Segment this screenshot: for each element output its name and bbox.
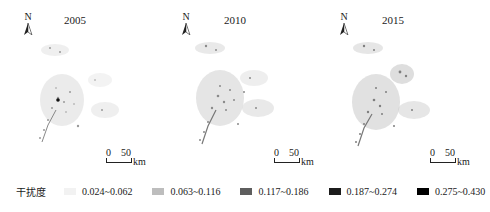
scale-fifty: 50 [289,148,299,158]
legend-item: 0.275~0.430 [417,186,485,197]
scale-zero: 0 [106,148,111,158]
map-panel-2010: N 2010 050 km [158,0,316,175]
legend-swatch [152,188,164,195]
legend: 干扰度 0.024~0.062 0.063~0.116 0.117~0.186 … [16,184,490,199]
scale-unit: km [457,156,470,167]
north-label: N [338,12,350,22]
scale-bar: 050 km [106,148,132,163]
scale-bar-line [106,158,132,163]
scale-bar-line [274,158,300,163]
legend-label: 0.187~0.274 [347,186,397,197]
scale-bar: 050 km [430,148,456,163]
legend-item: 0.063~0.116 [152,186,220,197]
scale-bar-line [430,158,456,163]
legend-swatch [417,188,429,195]
legend-label: 0.117~0.186 [258,186,308,197]
north-label: N [22,12,34,22]
year-label: 2010 [224,14,246,26]
scale-unit: km [301,156,314,167]
legend-label: 0.063~0.116 [170,186,220,197]
year-label: 2015 [382,14,404,26]
north-label: N [180,12,192,22]
year-label: 2005 [64,14,86,26]
scale-fifty: 50 [445,148,455,158]
scale-zero: 0 [274,148,279,158]
legend-title: 干扰度 [16,184,46,199]
scale-bar: 050 km [274,148,300,163]
legend-swatch [240,188,252,195]
legend-item: 0.117~0.186 [240,186,308,197]
scale-fifty: 50 [121,148,131,158]
legend-swatch [329,188,341,195]
legend-swatch [64,188,76,195]
legend-item: 0.024~0.062 [64,186,132,197]
legend-label: 0.275~0.430 [435,186,485,197]
disturbance-map-2005 [0,30,158,170]
legend-item: 0.187~0.274 [329,186,397,197]
legend-label: 0.024~0.062 [82,186,132,197]
map-panel-2015: N 2015 050 km [316,0,474,175]
scale-unit: km [133,156,146,167]
map-panel-2005: N 2005 050 km [0,0,158,175]
scale-zero: 0 [430,148,435,158]
